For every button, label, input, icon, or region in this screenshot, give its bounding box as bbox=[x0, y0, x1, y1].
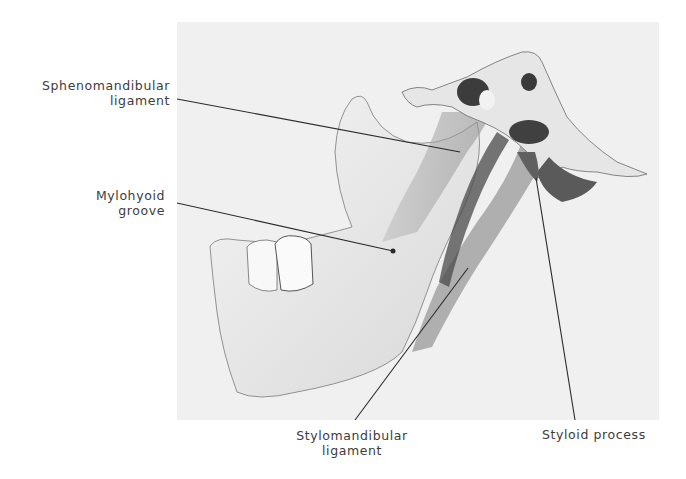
label-sphenomandibular-ligament: Sphenomandibular ligament bbox=[0, 78, 170, 108]
label-line-1: Styloid process bbox=[542, 427, 682, 442]
label-line-2: ligament bbox=[282, 443, 422, 458]
label-styloid-process: Styloid process bbox=[542, 427, 682, 442]
label-line-1: Sphenomandibular bbox=[0, 78, 170, 93]
label-line-1: Stylomandibular bbox=[282, 428, 422, 443]
mandible-drawing bbox=[177, 22, 659, 420]
label-stylomandibular-ligament: Stylomandibular ligament bbox=[282, 428, 422, 458]
label-line-2: groove bbox=[0, 203, 165, 218]
label-line-1: Mylohyoid bbox=[0, 188, 165, 203]
anatomical-illustration bbox=[177, 22, 659, 420]
label-mylohyoid-groove: Mylohyoid groove bbox=[0, 188, 165, 218]
label-line-2: ligament bbox=[0, 93, 170, 108]
